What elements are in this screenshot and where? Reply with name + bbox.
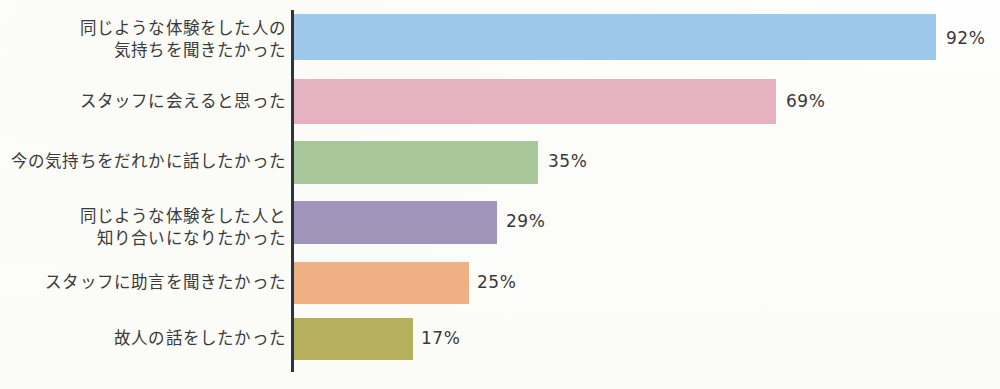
category-label: スタッフに助言を聞きたかった (45, 272, 286, 294)
bar-value-label: 25% (477, 274, 516, 291)
plot-area: 同じような体験をした人の 気持ちを聞きたかった92%スタッフに会えると思った69… (0, 0, 1000, 389)
bar (294, 14, 936, 60)
bar-value-label: 35% (548, 153, 587, 170)
category-label: スタッフに会えると思った (80, 91, 286, 113)
bar-value-label: 29% (506, 213, 545, 230)
bar (294, 141, 538, 184)
bar-value-label: 69% (786, 93, 825, 110)
bar-value-label: 92% (946, 30, 985, 47)
bar (294, 79, 776, 124)
bar (294, 262, 469, 304)
category-label: 同じような体験をした人の 気持ちを聞きたかった (80, 18, 286, 62)
bar-chart: 同じような体験をした人の 気持ちを聞きたかった92%スタッフに会えると思った69… (0, 0, 1000, 389)
category-label: 同じような体験をした人と 知り合いになりたかった (80, 206, 286, 250)
bar (294, 318, 413, 360)
bar-value-label: 17% (421, 330, 460, 347)
category-label: 今の気持ちをだれかに話したかった (11, 151, 286, 173)
bar (294, 201, 497, 244)
category-label: 故人の話をしたかった (114, 328, 286, 350)
